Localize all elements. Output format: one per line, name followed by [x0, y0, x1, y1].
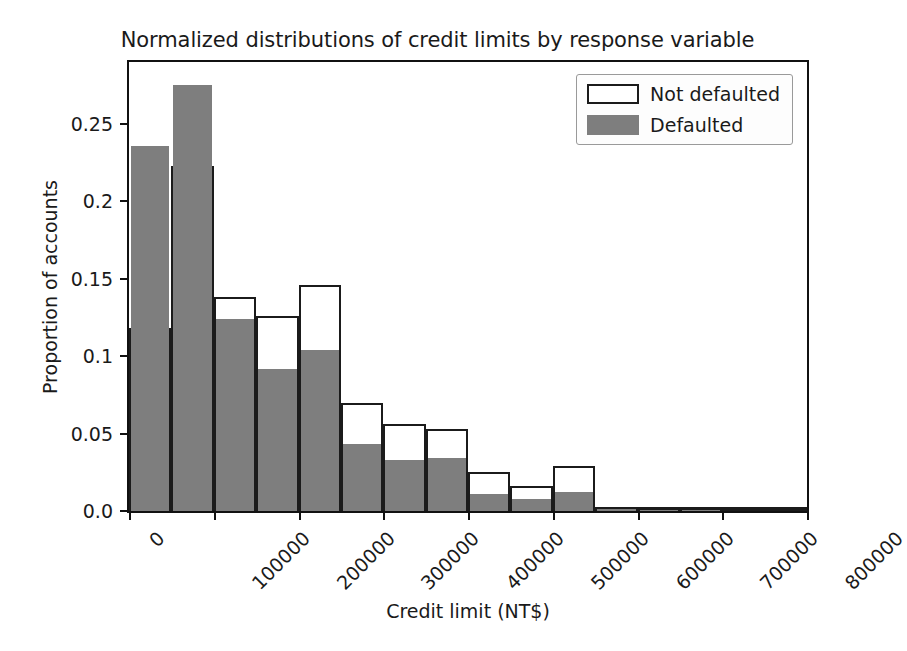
x-axis-tick: [553, 511, 555, 520]
x-axis-tick-label: 0: [145, 527, 169, 551]
chart-title: Normalized distributions of credit limit…: [0, 28, 875, 52]
y-axis-tick: [120, 433, 129, 435]
bar-defaulted: [385, 460, 423, 511]
x-axis-tick-label: 400000: [501, 527, 568, 594]
x-axis-tick-label: 800000: [840, 527, 907, 594]
legend-item-defaulted: Defaulted: [587, 114, 780, 136]
plot-area: 0.00.050.10.150.20.25 010000020000030000…: [127, 60, 809, 513]
y-axis-tick: [120, 123, 129, 125]
y-axis-tick: [120, 355, 129, 357]
y-axis-tick: [120, 510, 129, 512]
y-axis-tick: [120, 278, 129, 280]
x-axis-tick-label: 700000: [755, 527, 822, 594]
y-axis-label-wrapper: Proportion of accounts: [36, 60, 37, 513]
legend-item-not-defaulted: Not defaulted: [587, 83, 780, 105]
y-axis-tick-label: 0.25: [71, 113, 113, 135]
bar-defaulted: [555, 492, 593, 511]
bar-defaulted: [682, 510, 720, 511]
bar-defaulted: [470, 494, 508, 511]
bar-defaulted: [343, 444, 381, 511]
bar-defaulted: [216, 319, 254, 511]
x-axis-tick: [638, 511, 640, 520]
x-axis-tick: [807, 511, 809, 520]
x-axis-tick: [722, 511, 724, 520]
x-axis-tick: [299, 511, 301, 520]
y-axis-tick-label: 0.0: [83, 500, 113, 522]
legend-swatch-not-defaulted-icon: [587, 84, 639, 104]
x-axis-label: Credit limit (NT$): [127, 600, 809, 622]
x-axis-tick-label: 600000: [671, 527, 738, 594]
x-axis-tick-label: 500000: [586, 527, 653, 594]
y-axis-tick-label: 0.05: [71, 423, 113, 445]
x-axis-tick: [214, 511, 216, 520]
legend: Not defaulted Defaulted: [576, 74, 793, 145]
legend-label-defaulted: Defaulted: [650, 114, 743, 136]
bar-defaulted: [173, 85, 211, 511]
bar-defaulted: [428, 458, 466, 511]
x-axis-tick: [383, 511, 385, 520]
y-axis-label: Proportion of accounts: [39, 179, 61, 393]
y-axis-tick-label: 0.1: [83, 345, 113, 367]
bar-defaulted: [597, 509, 635, 511]
x-axis-tick-label: 300000: [416, 527, 483, 594]
x-axis-tick-label: 100000: [247, 527, 314, 594]
bar-defaulted: [258, 369, 296, 511]
bar-defaulted: [512, 499, 550, 511]
bar-defaulted: [301, 350, 339, 511]
x-axis-tick-label: 200000: [332, 527, 399, 594]
y-axis-tick-label: 0.2: [83, 190, 113, 212]
bar-defaulted: [640, 510, 678, 511]
legend-label-not-defaulted: Not defaulted: [650, 83, 780, 105]
y-axis-tick: [120, 200, 129, 202]
x-axis-tick: [468, 511, 470, 520]
legend-swatch-defaulted-icon: [587, 115, 639, 135]
x-axis-tick: [129, 511, 131, 520]
y-axis-tick-label: 0.15: [71, 268, 113, 290]
bar-defaulted: [131, 146, 169, 511]
